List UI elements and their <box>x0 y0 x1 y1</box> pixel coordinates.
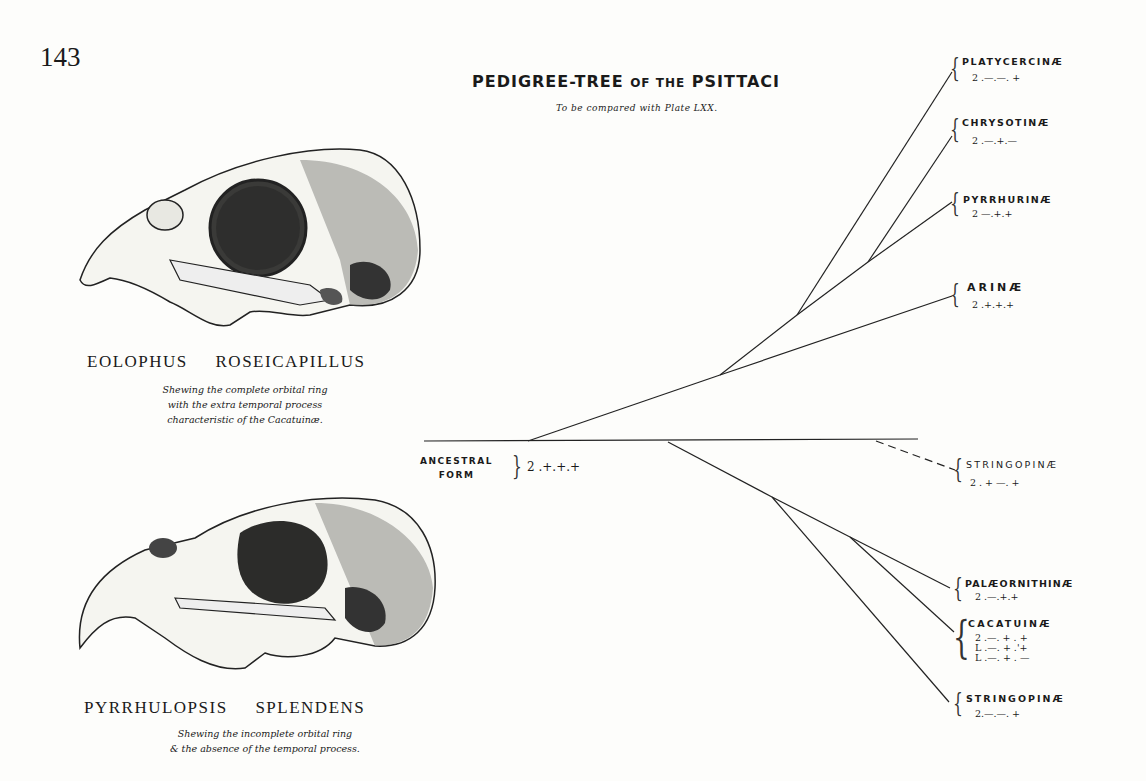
clade-formula: 2 —.+.+ <box>972 209 1013 219</box>
branch-palaeornithinae <box>850 537 950 588</box>
brace-icon: { <box>953 575 963 601</box>
clade-name: STRINGOPINÆ <box>966 459 1058 470</box>
clade-formula: 2 .—.+.— <box>972 136 1017 146</box>
branch-platycercinae <box>797 72 952 315</box>
clade-formula: 2 .—.+.+ <box>975 592 1019 602</box>
brace-icon: } <box>512 453 522 479</box>
clade-name: PYRRHURINÆ <box>963 194 1052 205</box>
ancestral-label-line1: ANCESTRAL <box>420 454 493 468</box>
clade-name: CACATUINÆ <box>968 618 1052 629</box>
brace-icon: { <box>950 116 960 142</box>
branch-upper-main <box>528 375 720 441</box>
branch-lower-node <box>772 497 850 537</box>
trunk-line <box>424 439 918 441</box>
ancestral-formula: 2 .+.+.+ <box>527 460 580 474</box>
clade-name: PLATYCERCINÆ <box>962 56 1063 67</box>
branch-upper-node <box>797 262 868 315</box>
clade-name: PALÆORNITHINÆ <box>965 578 1074 589</box>
clade-name: STRINGOPINÆ <box>966 693 1065 704</box>
branch-lower-main <box>668 442 772 497</box>
clade-formula: 2 .+.+.+ <box>972 300 1014 310</box>
brace-icon: { <box>953 456 963 482</box>
brace-icon: { <box>953 690 963 716</box>
clade-formula: 2.—.—. + <box>975 709 1020 719</box>
clade-formula: 2 .—.—. + <box>972 73 1020 83</box>
ancestral-form-label: ANCESTRAL FORM <box>420 454 493 482</box>
brace-icon: { <box>950 190 960 216</box>
brace-icon: { <box>950 55 960 81</box>
brace-icon: { <box>950 281 960 307</box>
branch-cacatuinae <box>850 537 954 632</box>
branch-pyrrhurinae <box>868 202 952 262</box>
branch-upper-inner <box>720 315 797 375</box>
clade-formula: L .—. + . — <box>975 653 1029 663</box>
clade-name: CHRYSOTINÆ <box>962 117 1050 128</box>
clade-name: ARINÆ <box>967 281 1024 294</box>
branch-stringopinae <box>772 497 949 702</box>
branch-chrysotinae <box>868 136 952 262</box>
branch-arinae <box>720 296 952 375</box>
ancestral-label-line2: FORM <box>420 468 493 482</box>
clade-formula: 2 . + —. + <box>970 478 1020 488</box>
branch-stringopinae-dashed <box>876 441 955 470</box>
